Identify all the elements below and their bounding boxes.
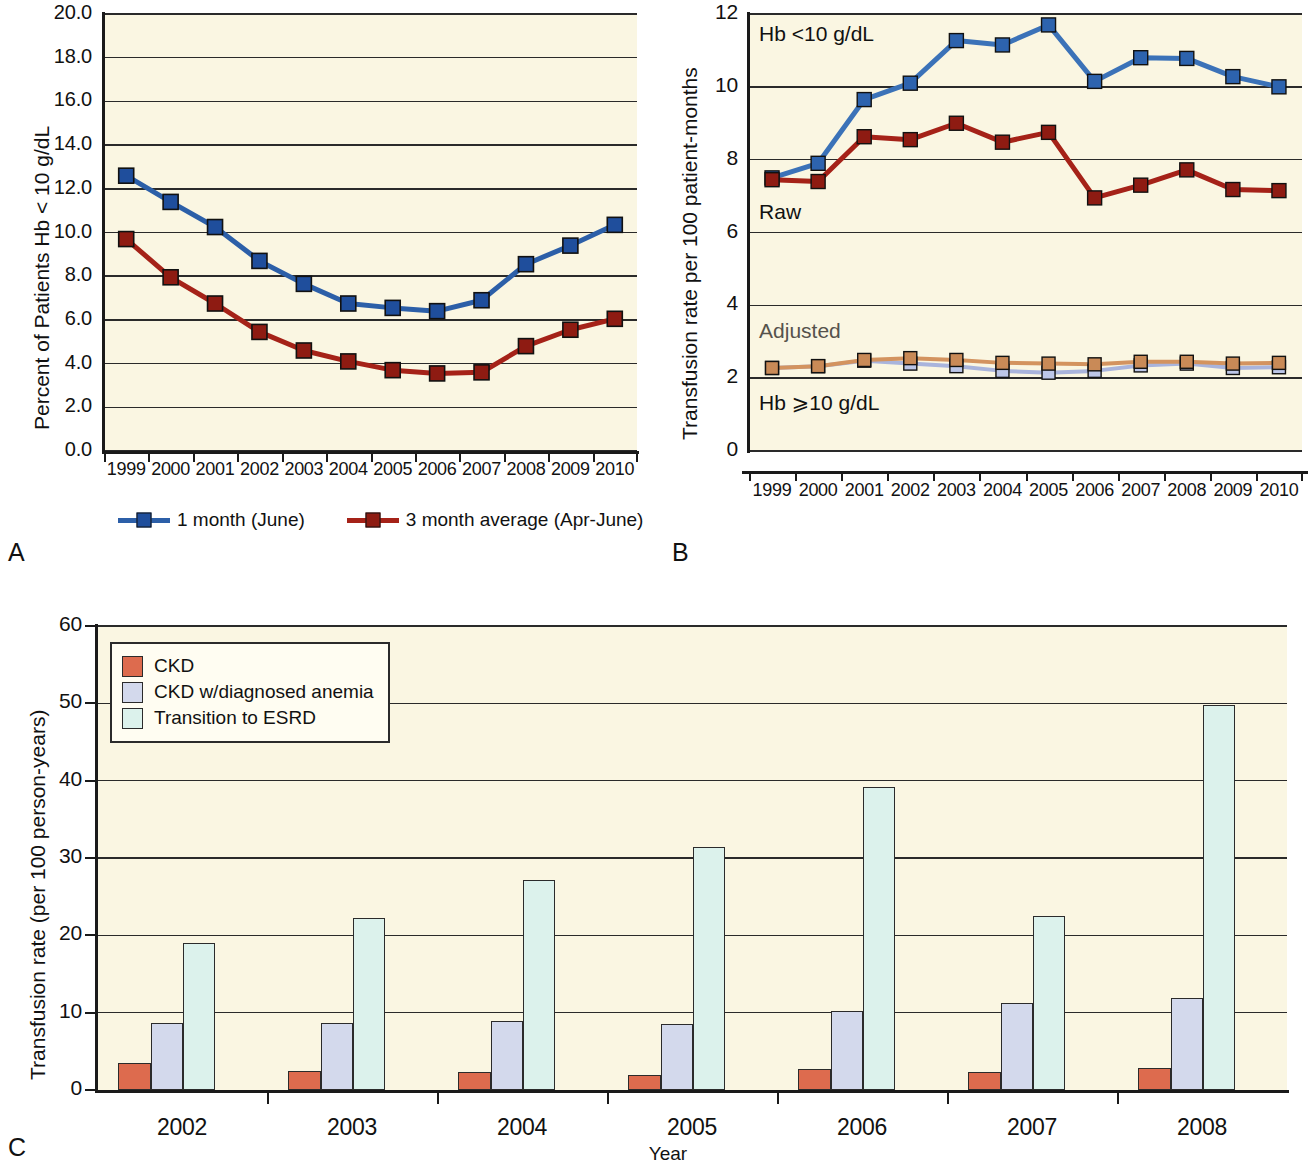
panel-a-letter: A [8,538,25,567]
legend-line-swatch [347,518,399,523]
bar-2008-0 [1138,1068,1170,1090]
bar-2008-1 [1171,998,1203,1090]
panel-c-x-axis-label: Year [608,1143,728,1165]
bar-2004-1 [491,1021,523,1090]
x-tickmark [267,1093,269,1104]
bar-2003-1 [321,1023,353,1090]
x-tickmark [947,1093,949,1104]
panel-b-annotation: Raw [759,200,801,224]
legend-line-swatch [118,518,170,523]
y-tickmark [85,780,97,782]
x-tick-label: 2007 [962,1114,1102,1141]
panel-a-legend-label: 3 month average (Apr-June) [406,509,644,531]
y-tickmark [85,1012,97,1014]
x-tickmark [437,1093,439,1104]
legend-color-swatch [122,708,143,729]
panel-c-legend: CKDCKD w/diagnosed anemiaTransition to E… [110,642,390,743]
bar-2002-2 [183,943,215,1090]
x-tickmark [1117,1093,1119,1104]
bar-2005-0 [628,1075,660,1090]
y-tickmark [85,857,97,859]
panel-a-legend: 1 month (June)3 month average (Apr-June) [118,509,643,531]
panel-c-legend-item: CKD w/diagnosed anemia [122,681,374,703]
x-tick-label: 2002 [112,1114,252,1141]
legend-marker-icon [365,513,380,528]
bar-2006-0 [798,1069,830,1090]
bar-2005-2 [693,847,725,1090]
panel-a-legend-item: 3 month average (Apr-June) [347,509,644,531]
panel-b-annotation: Hb ⩾10 g/dL [759,391,879,415]
panel-a-series-layer [0,0,660,580]
gridline [97,625,1287,627]
bar-2007-1 [1001,1003,1033,1090]
x-tickmark [777,1093,779,1104]
y-tick-label: 60 [38,612,82,636]
panel-c-legend-label: Transition to ESRD [154,707,316,729]
x-tickmark [607,1093,609,1104]
y-tickmark [85,702,97,704]
x-tick-label: 2008 [1132,1114,1272,1141]
bar-2003-2 [353,918,385,1090]
bar-2003-0 [288,1071,320,1090]
panel-b-annotation: Hb <10 g/dL [759,22,874,46]
bar-2008-2 [1203,705,1235,1090]
panel-c-y-axis-label: Transfusion rate (per 100 person-years) [26,710,50,1080]
bar-2004-0 [458,1072,490,1090]
panel-c-legend-label: CKD w/diagnosed anemia [154,681,374,703]
panel-c-legend-item: CKD [122,655,374,677]
panel-a-chart: 0.02.04.06.08.010.012.014.016.018.020.0 … [0,0,660,580]
x-tick-label: 2005 [622,1114,762,1141]
legend-marker-icon [137,513,152,528]
panel-a-legend-item: 1 month (June) [118,509,305,531]
legend-color-swatch [122,656,143,677]
panel-c-letter: C [8,1133,26,1162]
panel-c-legend-label: CKD [154,655,194,677]
y-tickmark [85,1089,97,1091]
bar-2002-0 [118,1063,150,1090]
panel-c-chart: 0102030405060 20022003200420052006200720… [0,580,1313,1176]
bar-2006-1 [831,1011,863,1090]
panel-b-series-layer [660,0,1313,580]
panel-b-chart: 024681012 199920002001200220032004200520… [660,0,1313,580]
bar-2004-2 [523,880,555,1090]
panel-b-annotation: Adjusted [759,319,841,343]
y-tickmark [85,625,97,627]
x-tick-label: 2004 [452,1114,592,1141]
bar-2005-1 [661,1024,693,1090]
x-tick-label: 2006 [792,1114,932,1141]
bar-2007-2 [1033,916,1065,1090]
panel-a-legend-label: 1 month (June) [177,509,305,531]
panel-c-x-axis [95,1090,1289,1093]
bar-2002-1 [151,1023,183,1090]
legend-color-swatch [122,682,143,703]
panel-c-legend-item: Transition to ESRD [122,707,374,729]
bar-2006-2 [863,787,895,1090]
x-tick-label: 2003 [282,1114,422,1141]
bar-2007-0 [968,1072,1000,1090]
panel-b-letter: B [672,538,689,567]
y-tickmark [85,934,97,936]
gridline [97,780,1287,782]
